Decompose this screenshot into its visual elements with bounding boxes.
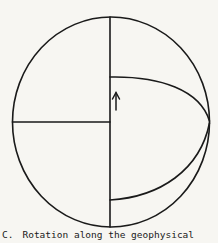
caption-label: C. [2,229,13,240]
arrow-up-icon [113,93,120,111]
lower-rotation-curve [110,123,210,200]
figure-caption: C.Rotation along the geophysical [2,228,218,242]
caption-text: Rotation along the geophysical [22,229,194,240]
globe-diagram [0,0,218,228]
upper-rotation-curve [110,77,210,121]
